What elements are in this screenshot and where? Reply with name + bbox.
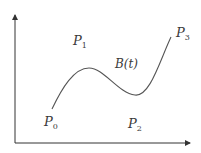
label-p2: P2 <box>127 116 142 133</box>
label-p1: P1 <box>72 33 87 50</box>
label-p3: P3 <box>175 25 190 42</box>
curve-label: B(t) <box>114 57 138 71</box>
bezier-diagram: P0 P1 P2 P3 B(t) <box>0 0 201 153</box>
bezier-curve <box>52 37 171 109</box>
label-p0: P0 <box>43 114 58 131</box>
